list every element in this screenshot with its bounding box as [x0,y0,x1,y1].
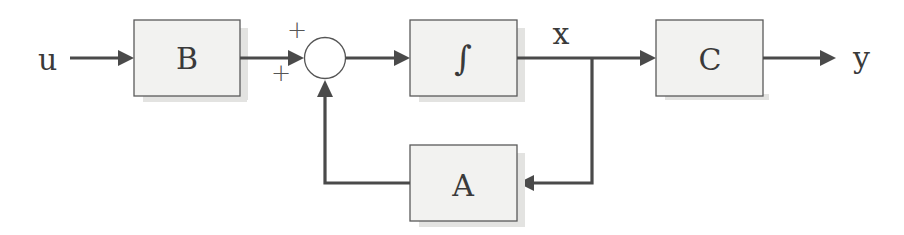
arrow-head-icon [394,50,410,66]
sum-sign-left: + [271,59,291,87]
arrow-head-icon [317,80,333,97]
output-signal-label: y [852,40,870,75]
state-signal-label: x [553,16,570,51]
arrow-head-icon [640,50,656,66]
a-to-sum-wire [325,95,410,183]
state-space-diagram: u B + + ∫ x C y [0,0,904,235]
sum-sign-top: + [287,16,307,44]
block-a: A [410,145,525,227]
block-b-label: B [176,41,198,76]
arrow-head-icon [118,50,134,66]
block-a-label: A [451,168,474,203]
input-signal-label: u [38,42,57,77]
block-integrator: ∫ [410,20,525,102]
arrow-head-icon [820,50,836,66]
block-b: B [134,20,248,102]
summing-junction [305,38,346,79]
state-feedback-wire [532,58,592,183]
block-c-label: C [699,42,722,77]
block-c: C [656,20,769,100]
integrator-icon: ∫ [454,38,472,78]
